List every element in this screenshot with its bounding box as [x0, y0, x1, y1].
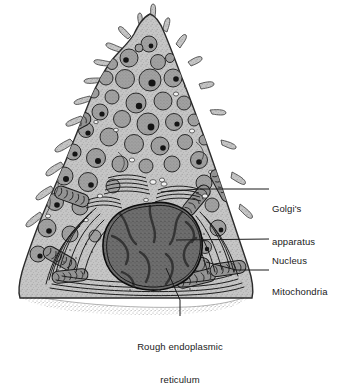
label-rer-line-1: Rough endoplasmic	[118, 341, 242, 352]
label-mitochondria: Mitochondria	[272, 264, 328, 319]
label-golgi-line-1: Golgi's	[272, 203, 315, 214]
nucleus	[103, 202, 202, 290]
label-rough-endoplasmic-reticulum: Rough endoplasmic reticulum	[118, 319, 242, 387]
label-rer-line-2: reticulum	[118, 374, 242, 385]
label-mitochondria-line-1: Mitochondria	[272, 286, 328, 297]
